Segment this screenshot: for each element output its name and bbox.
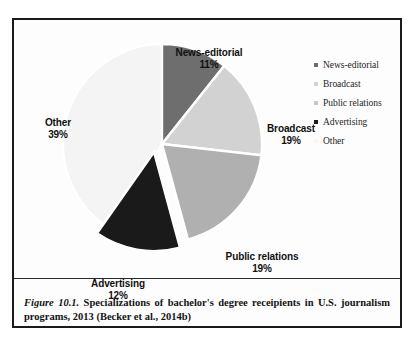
figure-caption: Figure 10.1. Specializations of bachelor… bbox=[24, 296, 390, 324]
figure-frame: News-editorial 11% Broadcast 19% Public … bbox=[12, 18, 402, 328]
pie-label-other-name: Other bbox=[45, 117, 71, 128]
legend-item-broadcast[interactable]: Broadcast bbox=[314, 75, 402, 93]
pie-label-advertising-name: Advertising bbox=[91, 278, 145, 289]
legend-label-other: Other bbox=[323, 136, 344, 146]
pie-slice-public-relations[interactable] bbox=[162, 144, 261, 240]
pie-label-news-editorial: News-editorial 11% bbox=[154, 47, 264, 71]
pie-label-news-editorial-name: News-editorial bbox=[176, 47, 243, 58]
pie-label-broadcast-name: Broadcast bbox=[267, 123, 315, 134]
figure-body: News-editorial 11% Broadcast 19% Public … bbox=[14, 20, 400, 278]
legend-item-advertising[interactable]: Advertising bbox=[314, 113, 402, 131]
square-marker-icon bbox=[314, 139, 318, 143]
legend-label-news-editorial: News-editorial bbox=[323, 60, 379, 70]
legend-item-other[interactable]: Other bbox=[314, 132, 402, 150]
pie-label-other: Other 39% bbox=[28, 117, 88, 141]
caption-divider bbox=[14, 278, 400, 279]
legend-label-broadcast: Broadcast bbox=[323, 79, 361, 89]
legend-label-public-relations: Public relations bbox=[323, 98, 382, 108]
square-marker-icon bbox=[314, 82, 318, 86]
chart-legend: News-editorial Broadcast Public relation… bbox=[314, 56, 402, 151]
square-marker-icon bbox=[314, 120, 318, 124]
pie-label-other-pct: 39% bbox=[28, 129, 88, 141]
figure-caption-text: Specializations of bachelor's degree rec… bbox=[24, 297, 390, 322]
figure-number: Figure 10.1. bbox=[24, 297, 79, 308]
legend-item-public-relations[interactable]: Public relations bbox=[314, 94, 402, 112]
legend-item-news-editorial[interactable]: News-editorial bbox=[314, 56, 402, 74]
pie-label-public-relations-name: Public relations bbox=[226, 251, 299, 262]
pie-label-news-editorial-pct: 11% bbox=[154, 59, 264, 71]
pie-chart: News-editorial 11% Broadcast 19% Public … bbox=[14, 20, 304, 278]
square-marker-icon bbox=[314, 63, 318, 67]
legend-label-advertising: Advertising bbox=[323, 117, 367, 127]
square-marker-icon bbox=[314, 101, 318, 105]
pie-label-public-relations: Public relations 19% bbox=[210, 251, 314, 275]
pie-label-public-relations-pct: 19% bbox=[210, 263, 314, 275]
